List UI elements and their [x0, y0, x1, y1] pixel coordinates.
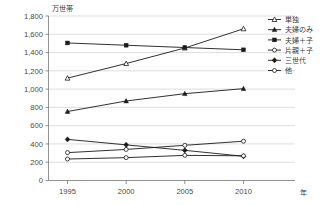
legend-label: 夫婦＋子 [285, 36, 313, 45]
legend-marker [273, 38, 277, 42]
data-point-marker [66, 41, 70, 45]
y-axis-tick-label: 400 [30, 140, 43, 149]
x-axis-tickmarks [68, 181, 244, 185]
data-point-marker [242, 48, 246, 52]
legend-label: 単独 [285, 15, 299, 24]
series-line [68, 141, 244, 152]
series-line [68, 139, 244, 156]
legend-marker [273, 69, 277, 73]
legend-label: 他 [285, 66, 292, 75]
series-line [68, 43, 244, 50]
y-axis-tick-label: 1,400 [24, 48, 43, 57]
y-axis-tick-label: 1,600 [24, 30, 43, 39]
legend-label: 三世代 [285, 56, 306, 65]
data-point-marker [124, 142, 129, 147]
series-line [68, 89, 244, 112]
household-composition-line-chart: 02004006008001,0001,2001,4001,6001,800 1… [0, 0, 323, 206]
y-axis-tick-label: 1,200 [24, 67, 43, 76]
legend-label: 片親＋子 [285, 46, 313, 55]
data-point-marker [65, 137, 70, 142]
legend: 単独夫婦のみ夫婦＋子片親＋子三世代他 [268, 15, 313, 75]
series-lines-group [68, 29, 244, 159]
x-axis-tick-label: 2000 [118, 187, 135, 196]
y-axis-tickmarks [46, 16, 49, 181]
data-point-marker [182, 148, 187, 153]
y-axis-tick-label: 1,000 [24, 85, 43, 94]
y-axis-tick-label: 800 [30, 103, 43, 112]
data-point-marker [183, 46, 187, 50]
y-axis-tick-label: 600 [30, 121, 43, 130]
chart-canvas: 02004006008001,0001,2001,4001,6001,800 1… [0, 0, 323, 206]
y-axis-tick-labels: 02004006008001,0001,2001,4001,6001,800 [24, 12, 43, 186]
x-axis-tick-labels: 1995200020052010 [59, 187, 252, 196]
data-point-marker [183, 143, 187, 147]
legend-marker [272, 58, 277, 63]
x-axis-tick-label: 2010 [235, 187, 252, 196]
data-point-marker [124, 156, 128, 160]
x-axis-tick-label: 2005 [176, 187, 193, 196]
data-point-marker [183, 153, 187, 157]
x-axis-unit-label: 年 [300, 188, 307, 197]
x-axis-tick-label: 1995 [59, 187, 76, 196]
y-gridlines [49, 16, 296, 162]
data-point-marker [242, 139, 246, 143]
data-point-marker [66, 151, 70, 155]
data-point-marker [124, 147, 128, 151]
data-point-marker [66, 157, 70, 161]
legend-label: 夫婦のみ [285, 25, 313, 34]
data-point-marker [124, 43, 128, 47]
series-line [68, 155, 244, 159]
data-point-marker [242, 154, 246, 158]
legend-marker [273, 48, 277, 52]
data-point-marker [241, 26, 246, 31]
y-axis-tick-label: 200 [30, 158, 43, 167]
y-axis-unit-label: 万世帯 [52, 4, 73, 13]
y-axis-tick-label: 0 [39, 176, 43, 185]
y-axis-tick-label: 1,800 [24, 12, 43, 21]
